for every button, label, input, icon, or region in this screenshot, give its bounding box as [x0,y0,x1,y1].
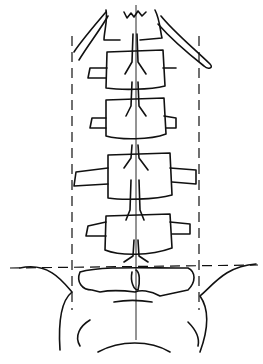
vertebra-t12 [74,10,211,68]
spine-diagram [0,0,263,364]
right-iliac [200,264,256,352]
right-rib [158,16,211,68]
vertebra-l2 [90,82,176,139]
vertebra-l3 [74,145,196,199]
left-rib [74,12,106,52]
sacrum-pelvis [20,264,256,352]
vertebra-l1 [88,34,176,89]
spine-drawing [0,0,263,364]
sacral-arc [98,343,170,352]
left-iliac [20,267,72,350]
